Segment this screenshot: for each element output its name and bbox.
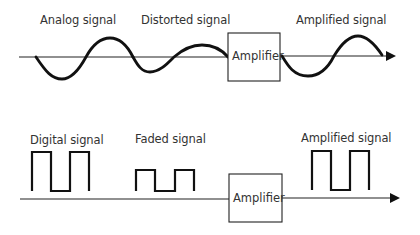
analog-signal-label: Analog signal <box>40 13 116 27</box>
analog-signal-wave <box>36 38 133 79</box>
digital-amplifier-label: Amplifier <box>233 191 285 205</box>
distorted-signal-label: Distorted signal <box>141 13 230 27</box>
analog-amplifier-label: Amplifier <box>232 49 284 63</box>
amplified-digital-label: Amplified signal <box>301 131 391 145</box>
analog-arrow-head <box>386 51 396 61</box>
amplified-digital-wave <box>312 151 369 190</box>
signal-diagram <box>0 0 420 235</box>
distorted-signal-wave <box>133 45 228 72</box>
digital-signal-wave <box>32 152 89 191</box>
amplified-analog-label: Amplified signal <box>296 13 386 27</box>
analog-row-graphics <box>19 33 396 81</box>
digital-signal-label: Digital signal <box>30 133 104 147</box>
digital-arrow-head <box>390 193 400 203</box>
faded-signal-label: Faded signal <box>135 132 206 146</box>
digital-row-graphics <box>20 151 400 222</box>
faded-signal-wave <box>136 170 194 191</box>
